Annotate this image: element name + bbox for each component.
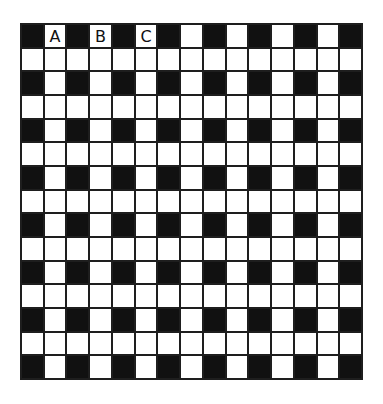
white-cell[interactable] (45, 285, 66, 307)
white-cell[interactable] (181, 96, 202, 118)
white-cell[interactable] (249, 238, 270, 260)
white-cell[interactable] (227, 143, 248, 165)
white-cell[interactable] (22, 96, 43, 118)
white-cell[interactable] (90, 96, 111, 118)
white-cell[interactable] (45, 262, 66, 284)
white-cell[interactable] (227, 167, 248, 189)
white-cell[interactable] (318, 25, 339, 47)
white-cell[interactable] (45, 333, 66, 355)
white-cell[interactable] (45, 72, 66, 94)
white-cell[interactable] (227, 49, 248, 71)
white-cell[interactable] (67, 143, 88, 165)
white-cell[interactable] (136, 120, 157, 142)
white-cell[interactable] (113, 96, 134, 118)
white-cell[interactable] (181, 309, 202, 331)
white-cell[interactable] (136, 238, 157, 260)
white-cell[interactable] (158, 238, 179, 260)
white-cell[interactable] (340, 49, 361, 71)
white-cell[interactable] (204, 285, 225, 307)
white-cell[interactable] (90, 285, 111, 307)
white-cell[interactable] (272, 96, 293, 118)
white-cell[interactable] (45, 309, 66, 331)
white-cell[interactable] (227, 96, 248, 118)
white-cell[interactable] (227, 214, 248, 236)
white-cell[interactable] (136, 285, 157, 307)
white-cell[interactable] (318, 262, 339, 284)
white-cell[interactable] (249, 285, 270, 307)
white-cell[interactable] (272, 25, 293, 47)
white-cell[interactable] (227, 25, 248, 47)
white-cell[interactable] (181, 214, 202, 236)
white-cell[interactable] (318, 72, 339, 94)
white-cell[interactable] (45, 356, 66, 378)
white-cell[interactable] (204, 143, 225, 165)
white-cell[interactable] (113, 238, 134, 260)
white-cell[interactable] (90, 238, 111, 260)
white-cell[interactable] (227, 120, 248, 142)
white-cell[interactable] (295, 143, 316, 165)
white-cell[interactable] (158, 333, 179, 355)
white-cell[interactable] (249, 49, 270, 71)
white-cell[interactable] (67, 333, 88, 355)
white-cell[interactable] (227, 238, 248, 260)
white-cell[interactable] (22, 238, 43, 260)
white-cell[interactable] (204, 96, 225, 118)
white-cell[interactable] (272, 49, 293, 71)
white-cell[interactable] (90, 167, 111, 189)
white-cell[interactable] (181, 49, 202, 71)
white-cell[interactable] (272, 309, 293, 331)
white-cell[interactable] (67, 238, 88, 260)
white-cell[interactable] (181, 356, 202, 378)
white-cell[interactable] (272, 143, 293, 165)
white-cell[interactable] (318, 143, 339, 165)
white-cell[interactable] (136, 167, 157, 189)
white-cell[interactable] (90, 214, 111, 236)
white-cell[interactable] (181, 238, 202, 260)
white-cell[interactable] (295, 96, 316, 118)
white-cell[interactable] (113, 191, 134, 213)
white-cell[interactable] (318, 285, 339, 307)
white-cell[interactable] (181, 72, 202, 94)
white-cell[interactable] (181, 120, 202, 142)
white-cell[interactable] (136, 72, 157, 94)
white-cell[interactable] (67, 49, 88, 71)
white-cell[interactable] (227, 191, 248, 213)
white-cell[interactable] (295, 49, 316, 71)
white-cell[interactable] (318, 120, 339, 142)
white-cell[interactable] (181, 333, 202, 355)
white-cell[interactable] (22, 49, 43, 71)
white-cell[interactable] (272, 333, 293, 355)
white-cell[interactable] (249, 96, 270, 118)
white-cell[interactable] (158, 96, 179, 118)
white-cell[interactable] (272, 238, 293, 260)
white-cell[interactable] (90, 49, 111, 71)
white-cell[interactable] (113, 49, 134, 71)
white-cell[interactable] (45, 120, 66, 142)
white-cell[interactable] (318, 356, 339, 378)
white-cell[interactable] (272, 356, 293, 378)
white-cell[interactable] (158, 191, 179, 213)
white-cell[interactable]: C (136, 25, 157, 47)
white-cell[interactable] (340, 143, 361, 165)
white-cell[interactable] (204, 333, 225, 355)
white-cell[interactable] (67, 285, 88, 307)
white-cell[interactable] (158, 49, 179, 71)
white-cell[interactable] (136, 214, 157, 236)
white-cell[interactable] (90, 143, 111, 165)
white-cell[interactable] (340, 191, 361, 213)
white-cell[interactable] (318, 309, 339, 331)
white-cell[interactable] (204, 49, 225, 71)
white-cell[interactable] (318, 96, 339, 118)
white-cell[interactable] (90, 333, 111, 355)
white-cell[interactable] (340, 285, 361, 307)
white-cell[interactable]: B (90, 25, 111, 47)
white-cell[interactable] (272, 191, 293, 213)
white-cell[interactable] (136, 262, 157, 284)
white-cell[interactable] (318, 167, 339, 189)
white-cell[interactable] (249, 333, 270, 355)
white-cell[interactable] (181, 262, 202, 284)
white-cell[interactable] (272, 72, 293, 94)
white-cell[interactable] (67, 191, 88, 213)
white-cell[interactable] (90, 262, 111, 284)
white-cell[interactable] (181, 191, 202, 213)
